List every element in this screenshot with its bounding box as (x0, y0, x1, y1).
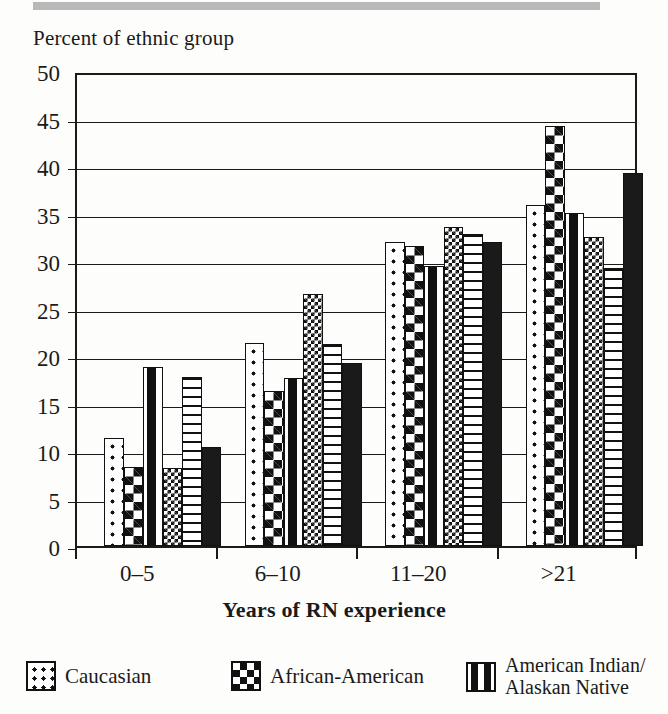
y-tick-45 (68, 122, 77, 123)
bar-group-3 (385, 75, 502, 546)
legend-label: American Indian/ Alaskan Native (505, 655, 668, 698)
bar (303, 294, 323, 546)
x-axis-ticks (75, 548, 637, 560)
dashes-swatch-icon (466, 662, 496, 692)
bar (143, 367, 163, 546)
y-tick-label-45: 45 (37, 109, 60, 132)
y-tick-label-0: 0 (49, 537, 61, 560)
x-tick-3 (497, 548, 499, 559)
x-tick-0 (75, 548, 77, 559)
bar-group-4 (526, 75, 643, 546)
bar (124, 467, 144, 546)
y-tick-label-50: 50 (37, 62, 60, 85)
bar (444, 227, 464, 546)
bar (623, 173, 643, 546)
y-tick-35 (68, 217, 77, 218)
chart-page: Percent of ethnic group 0510152025303540… (0, 0, 668, 714)
bar (323, 344, 343, 546)
y-tick-label-40: 40 (37, 157, 60, 180)
bar (342, 363, 362, 546)
x-tick-4 (635, 548, 637, 559)
legend-item-3[interactable]: American Indian/ Alaskan Native (466, 655, 668, 698)
legend-label: African-American (270, 665, 424, 688)
y-tick-10 (68, 454, 77, 455)
bar (245, 343, 265, 546)
bar (604, 268, 624, 546)
legend-label: Caucasian (65, 665, 151, 688)
x-axis-tick-labels: 0–56–1011–20>21 (75, 562, 637, 596)
dots-swatch-icon (26, 661, 56, 691)
y-tick-25 (68, 312, 77, 313)
chart-legend: CaucasianAfrican-AmericanAmerican Indian… (26, 655, 658, 711)
bar-series-container (77, 75, 635, 546)
bar (424, 266, 444, 546)
bar (104, 438, 124, 546)
bar-group-2 (245, 75, 362, 546)
y-tick-label-25: 25 (37, 299, 60, 322)
x-tick-label-2: 6–10 (255, 562, 301, 585)
bar (385, 242, 405, 546)
y-tick-label-20: 20 (37, 347, 60, 370)
bar (202, 447, 222, 546)
y-tick-30 (68, 264, 77, 265)
top-rule-band (33, 2, 600, 10)
bar (565, 213, 585, 546)
checkerboard-swatch-icon (231, 661, 261, 691)
y-tick-label-35: 35 (37, 204, 60, 227)
plot-area (75, 73, 637, 548)
y-tick-label-10: 10 (37, 442, 60, 465)
x-tick-label-4: >21 (541, 562, 577, 585)
y-tick-label-30: 30 (37, 252, 60, 275)
bar (182, 377, 202, 546)
x-tick-label-1: 0–5 (120, 562, 155, 585)
bar (526, 205, 546, 546)
x-tick-label-3: 11–20 (390, 562, 447, 585)
y-tick-15 (68, 407, 77, 408)
legend-item-1[interactable]: Caucasian (26, 661, 151, 691)
bar (483, 242, 503, 546)
y-tick-label-5: 5 (49, 489, 61, 512)
y-tick-5 (68, 502, 77, 503)
bar (163, 468, 183, 546)
y-axis-title: Percent of ethnic group (33, 26, 234, 51)
x-tick-2 (356, 548, 358, 559)
bar-group-1 (104, 75, 221, 546)
bar (463, 234, 483, 546)
y-tick-label-15: 15 (37, 394, 60, 417)
y-tick-20 (68, 359, 77, 360)
legend-item-2[interactable]: African-American (231, 661, 424, 691)
bar (405, 246, 425, 546)
y-tick-40 (68, 169, 77, 170)
bar (264, 391, 284, 546)
x-tick-1 (216, 548, 218, 559)
bar (284, 378, 304, 546)
y-axis-tick-labels: 05101520253035404550 (0, 73, 68, 548)
bar (584, 237, 604, 546)
bar (545, 126, 565, 546)
x-axis-title: Years of RN experience (0, 597, 668, 623)
